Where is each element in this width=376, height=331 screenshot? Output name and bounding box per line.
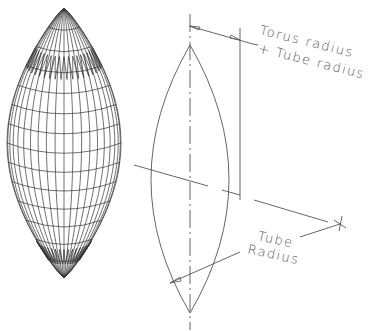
arrow-left-icon	[190, 26, 200, 30]
torus-radius-label: Torus radius + Tube radius	[254, 22, 371, 81]
lens-right-arc	[190, 45, 229, 313]
arrow-icon	[170, 277, 181, 283]
wireframe-lens	[7, 8, 121, 278]
tube-radius-label: Tube Radius	[246, 227, 304, 267]
torus-tube-dimension	[189, 26, 258, 45]
diagram-canvas: Torus radius + Tube radius Tube Radius	[0, 0, 376, 331]
